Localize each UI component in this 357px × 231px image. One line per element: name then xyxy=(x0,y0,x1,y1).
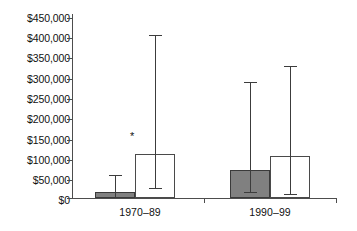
errorbar-1970-89-white xyxy=(148,35,162,189)
x-tick-label-1970-89: 1970–89 xyxy=(100,206,180,218)
errorbar-stem xyxy=(155,35,156,189)
x-tick-label-1990-99: 1990–99 xyxy=(230,206,310,218)
y-axis-tick-labels: $450,000 $400,000 $350,000 $300,000 $250… xyxy=(0,0,70,231)
y-tick-label: $200,000 xyxy=(2,114,70,124)
errorbar-cap-top xyxy=(109,175,122,176)
x-tick-mark xyxy=(336,199,337,203)
errorbar-1990-99-gray xyxy=(243,82,257,193)
errorbar-cap-bottom xyxy=(244,192,257,193)
errorbar-stem xyxy=(250,82,251,193)
errorbar-cap-top xyxy=(244,82,257,83)
y-tick-label: $450,000 xyxy=(2,13,70,23)
significance-asterisk: * xyxy=(130,132,134,141)
y-tick-label: $250,000 xyxy=(2,94,70,104)
y-tick-label: $0 xyxy=(2,195,70,205)
errorbar-cap-top xyxy=(149,35,162,36)
errorbar-stem xyxy=(115,175,116,198)
y-tick-label: $150,000 xyxy=(2,135,70,145)
errorbar-cap-bottom xyxy=(149,188,162,189)
y-tick-label: $350,000 xyxy=(2,53,70,63)
errorbar-cap-top xyxy=(284,66,297,67)
errorbar-1990-99-white xyxy=(283,66,297,195)
bar-chart: $450,000 $400,000 $350,000 $300,000 $250… xyxy=(0,0,357,231)
x-tick-mark xyxy=(204,199,205,203)
errorbar-1970-89-gray xyxy=(108,175,122,198)
errorbar-cap-bottom xyxy=(284,194,297,195)
errorbar-stem xyxy=(290,66,291,195)
y-tick-label: $50,000 xyxy=(2,175,70,185)
plot-area: * xyxy=(72,14,337,198)
y-tick-label: $100,000 xyxy=(2,155,70,165)
y-tick-label: $400,000 xyxy=(2,33,70,43)
y-tick-label: $300,000 xyxy=(2,74,70,84)
